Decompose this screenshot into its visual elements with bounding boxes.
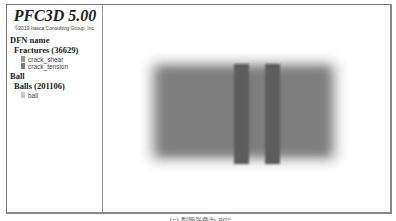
legend-item-crack-shear: crack_shear (28, 56, 63, 63)
pfc3d-plot-window: PFC3D 5.00 ©2019 Itasca Consulting Group… (6, 4, 392, 214)
legend-subheading-balls: Balls (201106) (14, 82, 65, 91)
app-title: PFC3D 5.00 (7, 7, 103, 24)
crack-band-right (265, 64, 280, 164)
figure-caption: (c) 裂隙张角为 90° (140, 214, 260, 221)
crack-shear-swatch (21, 56, 25, 62)
legend-item-ball: ball (28, 92, 38, 99)
ball-swatch (21, 92, 25, 98)
legend-heading-ball: Ball (10, 72, 25, 81)
legend-subheading-fractures: Fractures (36629) (14, 46, 78, 55)
copyright-text: ©2019 Itasca Consulting Group, Inc. (7, 25, 103, 31)
legend-item-crack-tension: crack_tension (28, 63, 68, 70)
crack-tension-swatch (21, 63, 25, 69)
crack-band-left (234, 64, 249, 164)
legend-heading-dfn: DFN name (10, 36, 49, 45)
legend-panel: PFC3D 5.00 ©2019 Itasca Consulting Group… (7, 5, 103, 212)
model-viewport[interactable] (104, 5, 390, 212)
